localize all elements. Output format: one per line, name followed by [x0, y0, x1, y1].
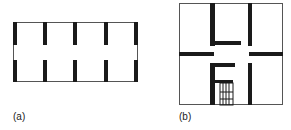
staircase-icon	[220, 83, 233, 105]
figure-a-label: (a)	[13, 111, 25, 122]
figure-b-walls	[179, 3, 283, 105]
figure-b-diagram	[0, 0, 291, 110]
figure-b-label: (b)	[179, 111, 191, 122]
